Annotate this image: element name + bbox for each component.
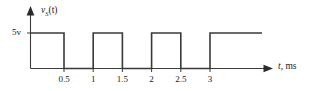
x-tick-label-2: 1.5 bbox=[117, 75, 128, 84]
x-tick-label-0: 0.5 bbox=[58, 75, 69, 84]
y-tick-label-5v: 5v bbox=[12, 28, 21, 37]
x-tick-label-4: 2.5 bbox=[175, 75, 186, 84]
x-axis-label: v_S(t)t, ms bbox=[278, 62, 296, 72]
square-wave-figure: vS(t) 5v 0.5 1 1.5 2 2.5 3 v_S(t)t, ms bbox=[0, 0, 322, 91]
x-tick-label-1: 1 bbox=[91, 75, 96, 84]
y-axis-label: vS(t) bbox=[41, 6, 57, 17]
y-axis-arrow-icon bbox=[27, 6, 35, 16]
y-axis-label-argument: (t) bbox=[48, 5, 57, 15]
square-wave-signal-path bbox=[31, 33, 263, 69]
x-axis-arrow-icon bbox=[264, 65, 274, 73]
x-tick-label-5: 3 bbox=[208, 75, 213, 84]
x-tick-label-3: 2 bbox=[149, 75, 154, 84]
x-axis-label-unit: , ms bbox=[281, 61, 297, 71]
